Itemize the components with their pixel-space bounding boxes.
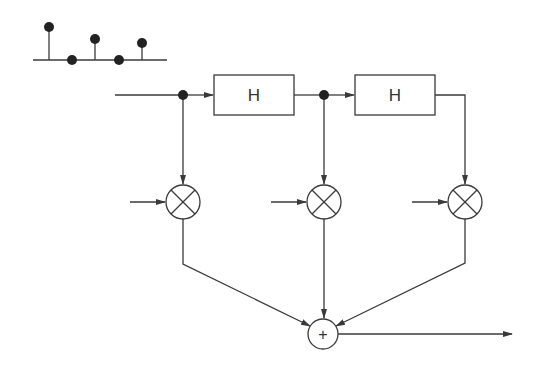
stem-sample-dot (137, 38, 147, 48)
mult3-to-adder-line (336, 219, 465, 326)
delay-block-2: H (355, 75, 435, 115)
delay-block-1-label: H (248, 86, 260, 105)
delay2-to-mult3-line (435, 95, 465, 184)
input-signal-stem-plot (33, 22, 167, 65)
stem-sample-dot (44, 22, 54, 32)
stem-sample-dot (114, 55, 124, 65)
stem-sample-dot (67, 55, 77, 65)
multiplier-2 (307, 185, 341, 219)
multiplier-3 (448, 185, 482, 219)
adder: + (308, 319, 338, 349)
fir-filter-diagram: H H + (0, 0, 533, 366)
junction-dot-2 (319, 90, 329, 100)
junction-dot-1 (178, 90, 188, 100)
multiplier-1 (166, 185, 200, 219)
delay-block-1: H (214, 75, 294, 115)
adder-plus-label: + (318, 326, 327, 343)
stem-sample-dot (90, 34, 100, 44)
mult1-to-adder-line (183, 219, 310, 326)
delay-block-2-label: H (389, 86, 401, 105)
